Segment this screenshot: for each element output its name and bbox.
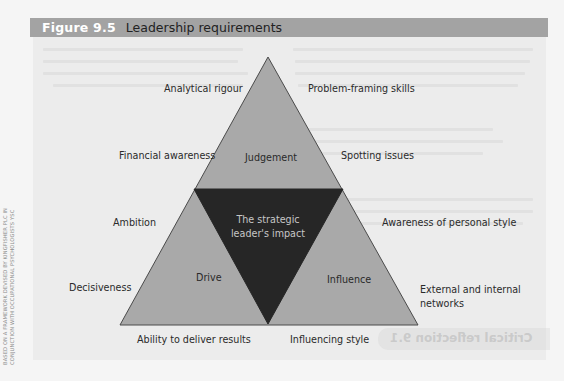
label-decisiveness: Decisiveness: [69, 282, 131, 293]
label-financial-awareness: Financial awareness: [119, 150, 215, 161]
center-label-line-1: The strategic: [222, 213, 314, 227]
label-external-internal-networks: External and internal networks: [420, 283, 521, 311]
label-analytical-rigour: Analytical rigour: [164, 83, 243, 94]
label-problem-framing-skills: Problem-framing skills: [308, 83, 415, 94]
center-label: The strategic leader's impact: [222, 213, 314, 241]
label-spotting-issues: Spotting issues: [341, 150, 414, 161]
bleed-through-heading: Critical reflection 9.1: [378, 328, 550, 350]
segment-judgement: Judgement: [245, 152, 297, 163]
label-external-internal-line-1: External and internal: [420, 283, 521, 297]
center-label-line-2: leader's impact: [222, 227, 314, 241]
bleed-through-text: Critical reflection 9.1: [390, 331, 532, 345]
label-influencing-style: Influencing style: [290, 334, 369, 345]
leadership-triangle-diagram: [0, 0, 564, 381]
label-ability-to-deliver-results: Ability to deliver results: [137, 334, 251, 345]
label-external-internal-line-2: networks: [420, 297, 521, 311]
label-ambition: Ambition: [113, 217, 156, 228]
label-awareness-personal-style: Awareness of personal style: [382, 217, 516, 228]
segment-influence: Influence: [327, 274, 371, 285]
segment-drive: Drive: [196, 272, 222, 283]
